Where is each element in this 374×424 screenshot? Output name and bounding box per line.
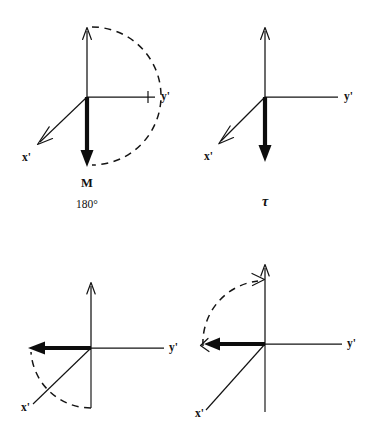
y-prime-axis-label: y' (344, 90, 353, 103)
x-prime-axis-line (206, 344, 265, 410)
y-prime-axis-label: y' (169, 341, 178, 354)
x-prime-axis-line (221, 97, 265, 141)
x-prime-axis-line (40, 97, 87, 142)
rotation-arc-dashed (31, 352, 91, 408)
tau-caption: τ (262, 194, 269, 209)
panel-top-right: y' x' τ (204, 28, 353, 210)
x-prime-axis-label: x' (204, 150, 213, 162)
panel-bottom-right: y' x' (195, 265, 356, 420)
x-prime-axis-label: x' (22, 151, 31, 163)
x-prime-axis-label: x' (21, 401, 30, 413)
y-prime-axis-label: y' (347, 337, 356, 350)
rotation-arc-arrowhead-icon (252, 274, 265, 286)
magnetization-vector-arrowhead-icon (81, 150, 94, 167)
figure-root: y' x' M 180° y' x' (0, 0, 374, 424)
x-prime-axis-line (33, 348, 91, 404)
vector-diagram-figure: y' x' M 180° y' x' (0, 0, 374, 424)
panel-bottom-left: y' x' (21, 283, 178, 414)
x-prime-axis-arrowhead-icon (38, 127, 53, 145)
panel-top-left: y' x' M 180° (22, 27, 170, 210)
magnetization-caption: M (81, 176, 93, 190)
x-prime-axis-arrowhead-icon (219, 126, 234, 144)
rotation-arc-180-dashed (92, 27, 161, 165)
flip-angle-caption: 180° (76, 198, 98, 210)
magnetization-vector-arrowhead-icon (259, 145, 272, 162)
y-prime-axis-label: y' (161, 90, 170, 103)
rotation-arc-dashed (203, 281, 258, 346)
x-prime-axis-label: x' (195, 407, 204, 419)
